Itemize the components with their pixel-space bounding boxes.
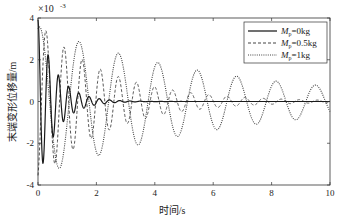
x-tick-label: 4 bbox=[153, 188, 158, 198]
x-tick-labels: 0246810 bbox=[36, 188, 335, 198]
x-axis-label: 时间/s bbox=[159, 204, 186, 216]
svg-text:Mp=1kg: Mp=1kg bbox=[280, 50, 311, 61]
x-tick-label: 8 bbox=[269, 188, 274, 198]
x-tick-label: 0 bbox=[36, 188, 41, 198]
y-tick-label: 4 bbox=[30, 13, 35, 23]
svg-text:Mp=0kg: Mp=0kg bbox=[280, 26, 311, 37]
x-tick-label: 2 bbox=[94, 188, 99, 198]
svg-text:Mp=0.5kg: Mp=0.5kg bbox=[280, 38, 317, 49]
svg-text:-3: -3 bbox=[60, 2, 66, 10]
y-tick-label: 0 bbox=[30, 97, 35, 107]
line-chart: ×10 -3 0246810 420-2-4 时间/s 末端变形位移量/m Mp… bbox=[0, 0, 340, 221]
y-tick-label: 2 bbox=[30, 55, 35, 65]
y-tick-label: -4 bbox=[27, 180, 35, 190]
y-multiplier: ×10 -3 bbox=[38, 2, 66, 14]
y-tick-label: -2 bbox=[27, 138, 35, 148]
svg-text:×10: ×10 bbox=[38, 3, 54, 14]
y-axis-label: 末端变形位移量/m bbox=[6, 62, 18, 143]
legend: Mp=0kg Mp=0.5kg Mp=1kg bbox=[244, 22, 327, 63]
x-tick-label: 10 bbox=[326, 188, 336, 198]
y-tick-labels: 420-2-4 bbox=[27, 13, 35, 190]
x-tick-label: 6 bbox=[211, 188, 216, 198]
